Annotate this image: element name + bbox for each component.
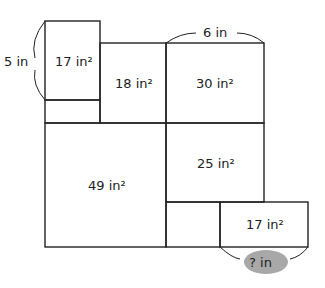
rect-top-left-strip [45,100,100,123]
area-diagram: 5 in 6 in ? in 17 in² 18 in² 30 in² 49 i… [0,0,325,288]
label-left-height: 5 in [4,54,28,69]
label-unknown-width: ? in [249,255,272,270]
region-label-bottom-right: 17 in² [246,217,284,232]
label-top-width: 6 in [203,25,227,40]
region-label-bottom-left: 49 in² [88,178,126,193]
brace-left [34,21,45,100]
region-label-top-right: 30 in² [196,76,234,91]
rect-bottom-small [166,202,220,247]
region-label-top-left: 17 in² [55,54,93,69]
region-label-top-middle: 18 in² [115,76,153,91]
region-label-middle-right: 25 in² [197,156,235,171]
